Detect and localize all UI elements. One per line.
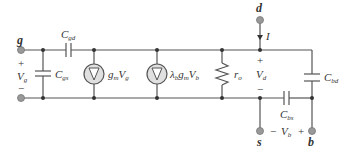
svg-text:+: + [18, 57, 24, 69]
current-source-gm: gmVg [84, 50, 129, 98]
svg-text:λbgmVb: λbgmVb [169, 68, 200, 82]
svg-text:+: + [298, 125, 304, 137]
vb-label: − Vb + [270, 125, 304, 139]
terminal-drain: d [256, 1, 264, 24]
circuit-diagram: Cgd Cgs gmVg λbgmVb ro I + Vd − [0, 0, 352, 154]
capacitor-cbd: Cbd [304, 71, 339, 85]
capacitor-cgd: Cgd [61, 28, 76, 57]
current-source-body: λbgmVb [147, 50, 200, 98]
svg-text:s: s [256, 135, 262, 149]
svg-text:+: + [257, 54, 263, 66]
svg-text:Cgd: Cgd [61, 28, 76, 42]
svg-text:d: d [256, 1, 263, 15]
svg-text:−: − [270, 125, 276, 137]
svg-text:gmVg: gmVg [108, 68, 129, 82]
svg-text:−: − [18, 82, 24, 94]
svg-text:Vb: Vb [281, 125, 292, 139]
terminal-gate: g [16, 33, 25, 54]
terminal-body: b [308, 128, 316, 150]
terminal-source: s [256, 128, 264, 150]
drain-branch: I + Vd − [256, 20, 271, 95]
svg-text:Cbd: Cbd [324, 71, 339, 85]
resistor-ro: ro [216, 50, 242, 98]
svg-text:I: I [265, 30, 271, 42]
svg-text:Vd: Vd [256, 68, 267, 82]
svg-text:b: b [308, 135, 314, 149]
capacitor-cbs: Cbs [280, 91, 294, 122]
capacitor-cgs: Cgs [35, 50, 69, 98]
svg-text:ro: ro [234, 68, 242, 82]
terminal-gate-ground [18, 95, 25, 102]
svg-text:Cbs: Cbs [280, 108, 294, 122]
svg-text:−: − [257, 83, 263, 95]
svg-text:g: g [16, 33, 23, 47]
bottom-rail [21, 81, 312, 131]
svg-text:Cgs: Cgs [55, 68, 69, 82]
vg-label: + Vg − [17, 57, 28, 94]
